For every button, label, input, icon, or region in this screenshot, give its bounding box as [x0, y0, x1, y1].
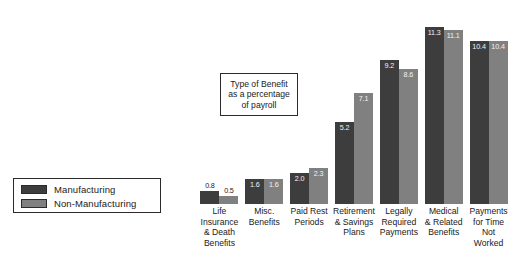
bar-group-bars: 10.410.4 — [466, 8, 511, 204]
bar-value-label: 7.1 — [359, 95, 369, 103]
category-label-line: & Death — [197, 227, 242, 238]
category-label-line: & Savings — [332, 217, 377, 228]
bar-non-manufacturing: 8.6 — [399, 69, 418, 204]
category-label-line: Payments — [466, 206, 511, 217]
bar-group: 2.02.3 — [287, 8, 332, 204]
bar-manufacturing: 0.8 — [200, 191, 219, 204]
bar-manufacturing: 5.2 — [335, 122, 354, 204]
bar-value-label: 10.4 — [472, 43, 485, 51]
bar-group: 0.80.5 — [197, 8, 242, 204]
bar-value-label: 1.6 — [269, 181, 279, 189]
legend-item-manufacturing: Manufacturing — [21, 183, 154, 196]
bar-group: 5.27.1 — [332, 8, 377, 204]
legend-label-manufacturing: Manufacturing — [54, 184, 115, 195]
bar-non-manufacturing: 7.1 — [354, 93, 373, 204]
category-label: Medical& RelatedBenefits — [421, 206, 466, 238]
bar-non-manufacturing: 10.4 — [489, 41, 508, 204]
bar-group-bars: 5.27.1 — [332, 8, 377, 204]
category-label: Misc.Benefits — [242, 206, 287, 227]
bar-value-label: 2.3 — [314, 170, 324, 178]
bar-value-label: 8.6 — [404, 71, 414, 79]
bar-non-manufacturing: 0.5 — [219, 196, 238, 204]
bar-value-label: 11.1 — [447, 32, 460, 40]
category-label-line: for Time — [466, 217, 511, 228]
bar-group-bars: 11.311.1 — [421, 8, 466, 204]
bar-group: 9.28.6 — [376, 8, 421, 204]
category-label: Paid RestPeriods — [287, 206, 332, 227]
category-label-line: & Related — [421, 217, 466, 228]
category-label: LegallyRequiredPayments — [376, 206, 421, 238]
bar-non-manufacturing: 11.1 — [444, 30, 463, 204]
legend-label-non-manufacturing: Non-Manufacturing — [54, 198, 136, 209]
bar-non-manufacturing: 1.6 — [264, 179, 283, 204]
bar-group: 10.410.4 — [466, 8, 511, 204]
bar-manufacturing: 9.2 — [380, 60, 399, 204]
category-label-line: Not — [466, 227, 511, 238]
bar-group-bars: 2.02.3 — [287, 8, 332, 204]
category-label-line: Legally — [376, 206, 421, 217]
category-label-line: Retirement — [332, 206, 377, 217]
bar-value-label: 1.6 — [250, 181, 260, 189]
bar-value-label: 0.5 — [224, 187, 234, 195]
plot-area: 0.80.51.61.62.02.35.27.19.28.611.311.110… — [197, 8, 511, 204]
category-label: Retirement& SavingsPlans — [332, 206, 377, 238]
bar-value-label: 11.3 — [428, 29, 441, 37]
bar-value-label: 2.0 — [295, 175, 305, 183]
bar-non-manufacturing: 2.3 — [309, 168, 328, 204]
bar-value-label: 10.4 — [491, 43, 504, 51]
category-label-line: Benefits — [421, 227, 466, 238]
bar-group: 1.61.6 — [242, 8, 287, 204]
legend-swatch-non-manufacturing — [21, 199, 47, 208]
bar-group-bars: 9.28.6 — [376, 8, 421, 204]
legend-swatch-manufacturing — [21, 185, 47, 194]
category-label-line: Benefits — [242, 217, 287, 228]
bar-manufacturing: 2.0 — [290, 173, 309, 204]
chart-legend: Manufacturing Non-Manufacturing — [13, 178, 161, 213]
bar-group: 11.311.1 — [421, 8, 466, 204]
category-label-line: Misc. — [242, 206, 287, 217]
category-label: LifeInsurance& DeathBenefits — [197, 206, 242, 248]
category-label-line: Paid Rest — [287, 206, 332, 217]
bar-group-bars: 1.61.6 — [242, 8, 287, 204]
bar-group-bars: 0.80.5 — [197, 8, 242, 204]
category-label-line: Insurance — [197, 217, 242, 228]
category-label-line: Life — [197, 206, 242, 217]
category-label-line: Required — [376, 217, 421, 228]
bar-manufacturing: 10.4 — [470, 41, 489, 204]
category-label-line: Payments — [376, 227, 421, 238]
category-label-line: Worked — [466, 238, 511, 249]
category-label-line: Medical — [421, 206, 466, 217]
bar-manufacturing: 11.3 — [425, 27, 444, 204]
bar-value-label: 5.2 — [340, 124, 350, 132]
category-label-line: Plans — [332, 227, 377, 238]
legend-item-non-manufacturing: Non-Manufacturing — [21, 197, 154, 210]
bar-value-label: 9.2 — [385, 62, 395, 70]
bar-value-label: 0.8 — [205, 182, 215, 190]
category-label-line: Periods — [287, 217, 332, 228]
bar-chart: Manufacturing Non-Manufacturing Type of … — [0, 0, 516, 261]
bar-manufacturing: 1.6 — [245, 179, 264, 204]
category-label-line: Benefits — [197, 238, 242, 249]
category-label: Paymentsfor TimeNotWorked — [466, 206, 511, 248]
